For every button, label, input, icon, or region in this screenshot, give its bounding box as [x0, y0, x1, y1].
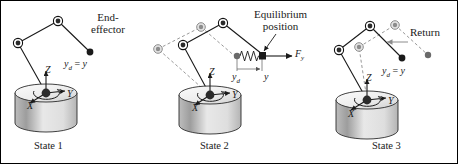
arm-links-state3 — [339, 26, 402, 100]
caption-state-1: State 1 — [34, 140, 63, 151]
caption-state-3: State 3 — [372, 140, 401, 151]
equilibrium-position-label-line1: Equilibrium — [254, 9, 307, 21]
ghost-end-effector-tip — [234, 53, 240, 59]
y-var: y — [83, 58, 87, 69]
ghost-joint-elbow — [154, 45, 163, 54]
end-effector-contact-block — [259, 52, 266, 60]
force-subscript: y — [301, 54, 304, 62]
axis-label-z-state1: Z — [45, 65, 51, 76]
yd-equals-y-label-state3: yd = y — [382, 66, 405, 79]
ghost-link-joint1-to-joint2 — [359, 25, 395, 47]
displacement-dimension — [237, 58, 262, 71]
end-effector-label-line2: effector — [91, 24, 125, 36]
axis-label-z-state3: Z — [366, 73, 372, 84]
force-fy-label: Fy — [295, 49, 304, 62]
equilibrium-leader-line — [264, 34, 276, 51]
equals-sign: = — [72, 58, 83, 69]
panel-state-2 — [154, 18, 292, 134]
joint-shoulder — [365, 21, 374, 30]
joint-elbow — [178, 40, 187, 49]
equals-sign: = — [390, 65, 401, 76]
ghost-joint-shoulder — [391, 21, 400, 30]
yd-label-state2: yd — [232, 72, 240, 85]
axis-label-x-state1: X — [27, 101, 33, 112]
ghost-joint-elbow — [355, 43, 364, 52]
end-effector-tip — [87, 49, 94, 56]
axis-label-x-state2: X — [192, 103, 198, 114]
figure-three-states-diagram: End- effector yd = y Z Y X State 1 Equil… — [0, 0, 458, 164]
joint-base — [363, 96, 372, 105]
joint-base — [42, 89, 51, 98]
panel-state-1 — [13, 16, 93, 132]
link-joint2-to-endeffector — [58, 21, 90, 52]
joint-base — [206, 91, 215, 100]
spring-element — [237, 51, 261, 61]
ghost-end-effector-tip — [425, 52, 431, 58]
caption-state-2: State 2 — [200, 140, 229, 151]
ghost-joint-shoulder — [197, 23, 206, 32]
end-effector-tip — [399, 55, 406, 62]
end-effector-label-line1: End- — [91, 12, 125, 24]
yd-equals-y-label-state1: yd = y — [64, 59, 87, 72]
equilibrium-position-label: Equilibrium position — [254, 9, 307, 32]
ghost-joints-state2 — [154, 23, 241, 60]
arm-links-state1 — [18, 21, 90, 93]
joint-shoulder — [218, 18, 227, 27]
axis-label-y-state3: Y — [388, 96, 394, 107]
y-var: y — [401, 65, 405, 76]
end-effector-label: End- effector — [91, 12, 125, 35]
axis-label-y-state1: Y — [67, 89, 73, 100]
equilibrium-position-label-line2: position — [254, 21, 307, 33]
yd-subscript: d — [236, 77, 240, 85]
y-label-state2: y — [264, 72, 268, 83]
axis-label-y-state2: Y — [232, 90, 238, 101]
return-label-line1: Return — [410, 27, 440, 39]
return-label: Return — [410, 27, 440, 39]
axis-label-z-state2: Z — [209, 67, 215, 78]
joint-elbow — [334, 45, 343, 54]
link-joint1-to-joint2 — [18, 21, 58, 43]
joint-elbow — [13, 38, 22, 47]
joint-shoulder — [53, 16, 62, 25]
axis-label-x-state3: X — [348, 109, 354, 120]
